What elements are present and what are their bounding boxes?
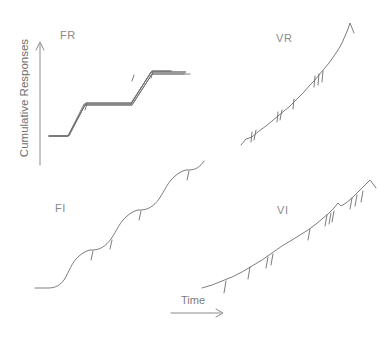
vi-hatch-marks <box>224 191 363 293</box>
panel-curve-fi <box>35 161 204 288</box>
panel-label-vr: VR <box>276 32 292 44</box>
x-axis-title: Time <box>181 294 205 306</box>
vr-hatch-marks <box>251 71 323 142</box>
panel-curve-vr <box>241 23 354 145</box>
fi-hatch-marks <box>91 171 189 260</box>
panel-curve-fr-main <box>49 72 185 136</box>
panel-label-fr: FR <box>60 29 76 41</box>
panel-curve-fr <box>49 74 190 136</box>
panel-label-fi: FI <box>55 202 66 214</box>
cumulative-record-figure: FR VR FI VI Cumulative Responses Time <box>0 0 392 337</box>
panel-label-vi: VI <box>277 204 289 216</box>
figure-canvas <box>0 0 392 337</box>
fr-record <box>49 71 172 136</box>
panel-curve-vi <box>202 180 376 288</box>
y-axis-title: Cumulative Responses <box>18 30 30 166</box>
panel-curve-fr-upper <box>131 72 186 104</box>
